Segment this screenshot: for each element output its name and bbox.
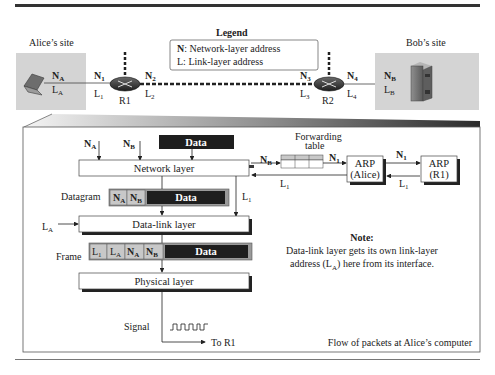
arp-r1-line2: (R1) bbox=[429, 169, 449, 181]
r1-n2-label: N2 bbox=[145, 70, 156, 83]
arp-r1-line1: ARP bbox=[429, 158, 450, 169]
alice-site-box bbox=[16, 53, 86, 110]
router-r2-icon bbox=[314, 77, 344, 91]
network-layer-label: Network layer bbox=[134, 163, 195, 174]
arp-alice-line2: (Alice) bbox=[350, 169, 380, 181]
frame-data: Data bbox=[195, 246, 217, 257]
legend-l-item: L: Link-layer address bbox=[177, 56, 263, 67]
datagram-data: Data bbox=[175, 192, 197, 203]
forwarding-table bbox=[281, 155, 323, 168]
legend-title: Legend bbox=[216, 27, 248, 38]
input-data-label: Data bbox=[185, 137, 207, 148]
r2-n3-label: N3 bbox=[300, 70, 311, 83]
arp-alice-line1: ARP bbox=[355, 158, 376, 169]
note-line1: Data-link layer gets its own link-layer bbox=[286, 245, 439, 256]
r1-l2-label: L2 bbox=[145, 88, 155, 101]
panel-caption: Flow of packets at Alice’s computer bbox=[328, 337, 473, 348]
r2-l4-label: L4 bbox=[347, 88, 357, 101]
r2-l3-label: L3 bbox=[300, 88, 310, 101]
to-r1-label: To R1 bbox=[211, 337, 236, 348]
r1-n1-label: N1 bbox=[94, 70, 105, 83]
signal-label: Signal bbox=[124, 321, 150, 332]
fwd-table-title-2: table bbox=[305, 140, 325, 151]
note-title: Note: bbox=[350, 232, 373, 243]
server-icon bbox=[411, 62, 432, 101]
zoom-funnel bbox=[24, 114, 480, 127]
datalink-layer-label: Data-link layer bbox=[132, 219, 196, 230]
datagram-label: Datagram bbox=[61, 191, 101, 202]
r2-n4-label: N4 bbox=[347, 70, 358, 83]
top-rule bbox=[15, 4, 480, 7]
packet-flow-diagram: Alice’s site NA LA R1 N1 L1 N2 L2 Legend… bbox=[0, 0, 495, 375]
router-r1-icon bbox=[110, 77, 140, 91]
physical-layer-label: Physical layer bbox=[134, 276, 194, 287]
r1-l1-label: L1 bbox=[94, 88, 104, 101]
bottom-rule bbox=[15, 359, 480, 360]
alice-site-label: Alice’s site bbox=[29, 37, 74, 48]
frame-label: Frame bbox=[56, 251, 82, 262]
bob-site-label: Bob’s site bbox=[406, 37, 446, 48]
r1-name: R1 bbox=[119, 95, 131, 106]
r2-name: R2 bbox=[322, 95, 334, 106]
legend-n-item: N: Network-layer address bbox=[177, 43, 280, 54]
